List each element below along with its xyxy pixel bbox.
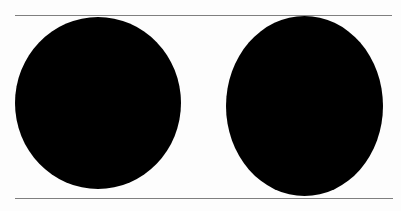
figure-canvas: [0, 0, 401, 211]
top-rule-line: [15, 15, 392, 16]
bottom-rule-line: [15, 198, 393, 199]
right-black-circle: [226, 16, 383, 196]
left-black-circle: [15, 17, 181, 189]
